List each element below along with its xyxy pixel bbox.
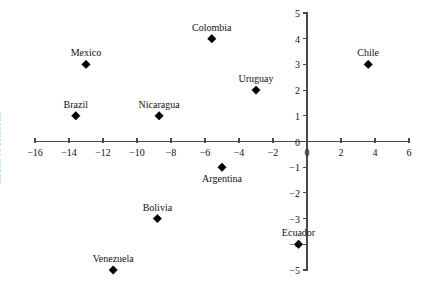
y-tick-label: 0 (295, 136, 300, 147)
x-tick-label: 4 (373, 147, 378, 158)
x-tick-label: 6 (407, 147, 412, 158)
data-point-label: Bolivia (143, 202, 172, 213)
y-tick-label: 4 (295, 33, 300, 44)
data-point-marker (153, 214, 161, 222)
scatter-chart-figure: Index of Reform −16−14−12−10−8−6−4−20246… (0, 0, 439, 286)
y-tick-label: 2 (295, 85, 300, 96)
x-tick-label: −12 (95, 147, 111, 158)
x-tick-label: −6 (200, 147, 211, 158)
y-tick-label: −1 (289, 162, 300, 173)
data-point-label: Venezuela (93, 253, 134, 264)
y-tick-label: −3 (289, 213, 300, 224)
x-tick-label: −14 (61, 147, 77, 158)
data-point-marker (82, 60, 90, 68)
x-tick-label: −10 (129, 147, 145, 158)
y-tick-label: 3 (295, 59, 300, 70)
data-point-marker (109, 266, 117, 274)
data-point-marker (155, 112, 163, 120)
data-point-label: Chile (357, 47, 379, 58)
data-point-marker (364, 60, 372, 68)
x-tick-label: −2 (268, 147, 279, 158)
data-point-label: Argentina (202, 173, 242, 184)
y-tick-label: −4 (289, 239, 300, 250)
x-tick-label: −4 (234, 147, 245, 158)
y-tick-label: −2 (289, 187, 300, 198)
x-tick-label: −16 (27, 147, 43, 158)
data-point-label: Uruguay (239, 73, 274, 84)
x-tick-label: 0 (305, 147, 310, 158)
data-point-label: Colombia (192, 22, 231, 33)
x-tick-label: −8 (166, 147, 177, 158)
plot-area (0, 0, 439, 286)
data-point-label: Ecuador (282, 227, 315, 238)
y-tick-label: 5 (295, 8, 300, 19)
x-tick-label: 2 (339, 147, 344, 158)
data-point-marker (208, 35, 216, 43)
data-point-label: Nicaragua (139, 99, 180, 110)
data-point-marker (218, 163, 226, 171)
y-tick-label: 1 (295, 110, 300, 121)
y-tick-label: −5 (289, 265, 300, 276)
data-point-marker (252, 86, 260, 94)
data-point-marker (72, 112, 80, 120)
data-point-label: Brazil (64, 99, 88, 110)
data-point-label: Mexico (71, 47, 102, 58)
